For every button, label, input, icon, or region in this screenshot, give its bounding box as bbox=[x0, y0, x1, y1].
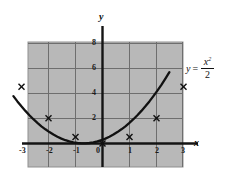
x-tick-label-neg1: -1 bbox=[73, 147, 80, 155]
y-tick-label-2: 2 bbox=[92, 114, 96, 122]
equation-numerator-exponent: 2 bbox=[208, 56, 211, 62]
x-tick-label-0: 0 bbox=[96, 147, 100, 155]
y-axis-label: y bbox=[99, 12, 103, 22]
parabola-plot bbox=[0, 0, 240, 184]
y-tick-label-4: 4 bbox=[92, 89, 96, 97]
y-tick-label-6: 6 bbox=[92, 64, 96, 72]
x-tick-label-neg2: -2 bbox=[46, 147, 53, 155]
x-tick-label-3: 3 bbox=[181, 147, 185, 155]
x-tick-label-neg3: -3 bbox=[19, 147, 26, 155]
equation-denominator: 2 bbox=[203, 69, 212, 80]
equation-lhs: y bbox=[186, 63, 190, 74]
graph-figure: 8 6 4 2 -3 -2 -1 0 1 2 3 y x y = x2 2 bbox=[0, 0, 240, 184]
x-axis-label: x bbox=[194, 138, 199, 148]
equation-equals-sign: = bbox=[192, 63, 198, 74]
equation-annotation: y = x2 2 bbox=[186, 56, 214, 80]
x-tick-label-1: 1 bbox=[128, 147, 132, 155]
y-tick-label-8: 8 bbox=[92, 39, 96, 47]
equation-numerator: x2 bbox=[202, 56, 213, 68]
x-tick-label-2: 2 bbox=[155, 147, 159, 155]
equation-fraction: x2 2 bbox=[201, 56, 214, 80]
